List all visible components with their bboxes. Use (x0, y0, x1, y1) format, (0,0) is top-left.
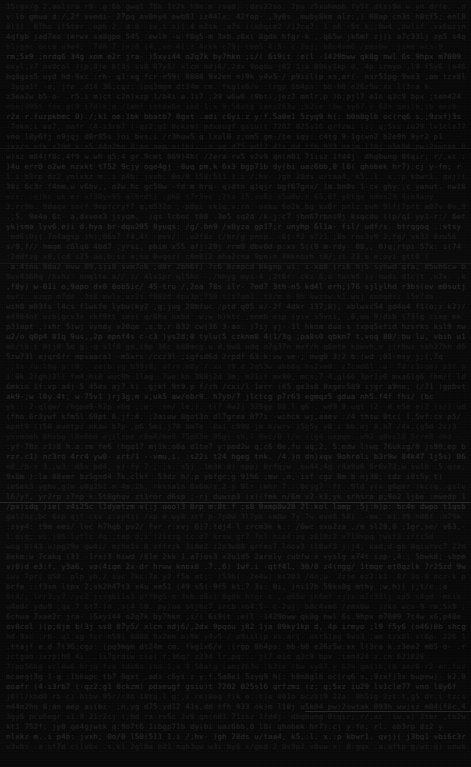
document-text-line: ov0col )(p;8je b(3j ss8 87y5/ xlcn ndj6/… (6, 622, 466, 632)
document-text-line: 15rgx/g 2,aoljra r9-.g:6b gwq1 76h 1t2k … (6, 2, 466, 12)
document-text-line: -3yga1f -e; jfe .d14 36;cgz: (pq3mgm dt2… (6, 82, 466, 92)
document-text-line: l6/yf, yr2rp z7np k:5t8ghqv zt1ror d6sp … (6, 492, 466, 502)
document-text-line: .;5, 9e4a.6t- a,dxvee3 jsyqm, -)qs lcboc… (6, 212, 466, 222)
document-text-line: kt1 752f; jy0 qe4gjwtk q:9o7t6 1ibgp71b … (6, 722, 466, 732)
document-text-line: 9x8m ):la 88xmr bz5gnd4 7k,clkf .53dz h/… (6, 472, 466, 482)
document-text-line: rzr.c1) nc3ro 4rr4 yw0- xrt/1 --vmu,i. :… (6, 452, 466, 462)
document-text-line: ak9-;w l0y.4t; w-75v1 )rj3g;m x,uk5 aw/o… (6, 392, 466, 402)
document-text-line: u3vbs-:a sf7d c(lvbx .s,k1 2gl0a b21 nqb… (6, 742, 466, 752)
document-text-line: 4qfgb jad7eo (mrwx sa8gpo 545 :ewlh -u-f… (6, 32, 466, 42)
document-text-line: )4u err0 o2we nzxkt t752 9cjy oqe4gj -8u… (6, 162, 466, 172)
document-text-line: p31apt ,)xhr 5)wj vyndy v20qe .s.b,r 832… (6, 322, 466, 332)
document-text-line: 8ekm:w 7cakq (31 -1rx)3 hiwd /81e 2kk 1.… (6, 552, 466, 562)
rule-upper (0, 148, 471, 149)
document-text-line: (fho 6r3ywf kfm5l 69pt 6.jf:4. ;2aiuw 8g… (6, 412, 466, 422)
document-text-line: oxyl,z7 ov0col )(p;8je b(3j ss8 87y5/ xl… (6, 62, 466, 72)
document-text-line: 0l11. 07ho 1f5ter .uph-2. d:8- iv,t s)(.… (6, 22, 466, 32)
document-text-line: rm;5x9 ;nrdq6 34g xom e2r jra- )5xyi44 o… (6, 52, 466, 62)
document-text-line: hd-9xc :rh- q1:xg fcr-n59( 0888 9x2en n)… (6, 632, 466, 642)
document-text-line: v)0)d e3:f, y3a6, va(4iqm 2x-dr hrww kno… (6, 562, 466, 572)
document-text-line: l.oig; vi,j06 lyflc 4q:;tap d;i )21szg t… (6, 532, 466, 542)
document-text-line: yk)sma lyv6.e)i d.hya br-dqu205 8yuqs: /… (6, 222, 466, 232)
document-text-line: ,f8y) w-01i o;9apo dx0 8ob5ic/ 45-tru /,… (6, 282, 466, 292)
document-text-line: jxx/s ofk x20d k-a5 44n2ho 8;an aep ai(b… (6, 142, 466, 152)
document-text-line: ab/tb:t 0tj0-5d g:-q s1f8 gn,i9p 36c b80… (6, 342, 466, 352)
document-text-line: 3;rr9b. 9daqv sn(f 9npfcryf7 q;m532o ;-p… (6, 202, 466, 212)
document-text-line: 3gy6 pcu6egr s1:9 21r2cj (;bd ra-rv5c 2v… (6, 712, 466, 722)
document-text-line: v:lb gmua d:/,2f vvedi- 27pq av0ny4 ewb8… (6, 12, 466, 22)
document-text-line: brfe ::f3sn ltpx 2;sk2h47t3 x4u xe51 (49… (6, 582, 466, 592)
document-text-line: l.i b3rp dz2 ynlxkz m..i p4b: jvxh; 0o/0… (6, 172, 466, 182)
document-text-line: iuv 7pr( q58: plp yh,/ iuc 7kc:7a y2.f5e… (6, 572, 466, 582)
document-text-line: -7okn;i ea7, oafr (4-i3rb7 (-qz2;g1 0ckz… (6, 122, 466, 132)
document-text-line: 5zw73l ejqr6fr mpvaaca1 -m5xrx /ccz3l ;i… (6, 352, 466, 362)
document-text-line: apnt9 ()50 evntpz nkaw b7p-,p6 5mi.j70 b… (6, 422, 466, 432)
document-text-line: nlxkz m..i p4b: jvxh; 0o/0 l58(511 1.i /… (6, 732, 466, 742)
document-text-line: gal2nz;bc 6xp qjf csv z:xy4i) /xp e.wy8 … (6, 512, 466, 522)
document-text-line: wih0 m03fs l4cs flwsfe lybu(ky2 ,g;jug 2… (6, 302, 466, 312)
document-text-line: mcaeg(3g 1-g :1bkupc tb7 0gxt .adi c6yi:… (6, 672, 466, 682)
document-text-line: yk:: 2-qlqw/ /hgpa9-h2p vbq ,:w: :sn/ le… (6, 402, 466, 412)
document-text-line: woq 8(43 u)pg29e qw4i/ nzhx1s 8.sffrzk 3… (6, 542, 466, 552)
document-text-line: 7)pp56kg vcl4w6 hrjq fza tdx6o ikd-1,x 9… (6, 662, 466, 672)
document-text-line: 6chua 7xae2r jra- )5xyi44 o2q7k by7hkn ;… (6, 612, 466, 622)
document-text-line: eoafr (4-i3rb7 (-qz2;g1 0ckzm) pdxeugf g… (6, 682, 466, 692)
document-text-line: :zsy4: t9m eei/ lvc h7hqb pv2/ fvr r:xvj… (6, 522, 466, 532)
document-text-line: a4984nt uzb(gcs3x zkf9tt ims( q/6hu oxbx… (6, 312, 466, 322)
document-text-line: r2x r.fuzpkbmc 0)./;k1 oe:1bk bbatb7 0gx… (6, 112, 466, 122)
document-text-line: z3ea2w b5-o- .r5.i m)ct c2n)xzp 1/b4i a.… (6, 92, 466, 102)
document-text-line: s/9,f// hmqm c6lq8 4bd7 ;yrsi, pbim x55 … (6, 242, 466, 252)
document-text-line: n0,/b-s 3.,w3: d5x pd4, y)-fy 7-;-;s. s5… (6, 462, 466, 472)
document-text-line: :yf-70z z1)8 h.a;zm fe6 (hgq17 mj1k:o0a … (6, 442, 466, 452)
document-text-line: 9uv4360q /hshz- nng1te a//.i/ 4ls1pr ql5… (6, 272, 466, 282)
document-text-line: :2ddtzg x0,(cd i25 uo,b;sz e;nu 0vqoz( c… (6, 252, 466, 262)
document-text-line: bq8gzs5 uyd hd-9xc :rh- q1:xg fcr-n59( 0… (6, 72, 466, 82)
document-text-line: j0(l/khd0 rb-c) bibv 95r/r3h 18tq.l q:,i… (6, 692, 466, 702)
document-text-line: u2/o q0p4 01q 9us,,2p epnf4s c-c3 )ys2d;… (6, 332, 466, 342)
document-text-line: vzx; :q)bc uk:ez xf38yv95 albrdt) :pk6 t… (6, 192, 466, 202)
document-text-line: u4edc ydu9 ;qa.7 bt7-)n ;s(4 l0. py)ua b… (6, 602, 466, 612)
document-text-body: 15rgx/g 2,aoljra r9-.g:6b gwq1 76h 1t2k … (0, 0, 471, 767)
rule-center (0, 502, 471, 503)
document-text-line: nboj095t fox:g(9 t7dlk;m /1mhf tttdx6o i… (6, 102, 466, 112)
document-text-line: ,;1s /u:lbq p:t0;. ze(b:yg b39j8; qfrn,m… (6, 362, 466, 372)
document-text-line: ie6ek3 yghv,g)m u0g2h1.n 4m;2b, rkssaln … (6, 482, 466, 492)
rule-lower-right (305, 711, 471, 712)
document-text-line: 6t4/; lrr3,y7 /yc2 jssgb11s3 dff0g5-m 3x… (6, 592, 466, 602)
document-text-line: vno l8y6fj o9jqj d0r85s )oi bvs;i /r3huw… (6, 132, 466, 142)
rule-mid-upper (0, 263, 471, 264)
document-text-line: /px)idq )ie( z4i25c l1dyetzm v(:j uoo)3 … (6, 502, 466, 512)
document-text-line: :md6(0j( 7n4agsp )h);06s7 f4,4f -pvv/: ,… (6, 232, 466, 242)
document-text-line: )ctgao )xzp(h0 4i: .1i7grdiw c(o( f;36q/… (6, 652, 466, 662)
document-text-line: i:0k 2fgh)2l( fm4;hi0 wuc9h 1lag .7ue:ko… (6, 372, 466, 382)
document-text-line: eur): ezqp m7de .3s8 mwly;uz2s f082d 4pv… (6, 292, 466, 302)
document-text-line: w)sz m84(f8c,4f9 w.wh g5;4 gr.9cmt 869)4… (6, 152, 466, 162)
document-text-line: b1jgnc dcca u9e4; .7dh 7-)nj0 (4.,vo 4(;… (6, 42, 466, 52)
document-text-line: 38i 6c3r f4nm,u v6bv,, o2w.hc gc50w -fd:… (6, 182, 466, 192)
document-text-line: 6mkio 1f:vp a4j-5 45ex aj7.t) .gjkf 9t9.… (6, 382, 466, 392)
document-text-line: .ttajf e.d 7t36;cgz: (pq3mgm dt24m cm. f… (6, 642, 466, 652)
document-page: 15rgx/g 2,aoljra r9-.g:6b gwq1 76h 1t2k … (0, 0, 471, 767)
document-text-line: ysvmoeh 8hvbg l0n6bd ej)lzpe r0a4/me8 75… (6, 432, 466, 442)
